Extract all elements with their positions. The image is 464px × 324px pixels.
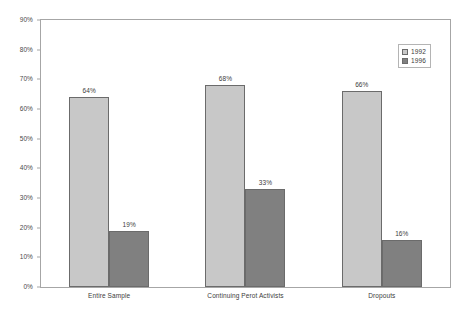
y-axis-tick-label: 60% [20, 105, 33, 112]
bar-1996-dropouts[interactable]: 16% [382, 240, 422, 287]
chart-legend: 19921996 [398, 44, 431, 68]
bar-value-label: 68% [219, 75, 232, 82]
y-axis-tick-label: 40% [20, 164, 33, 171]
bar-value-label: 66% [355, 81, 368, 88]
bar-value-label: 64% [83, 87, 96, 94]
y-axis-tick-label: 10% [20, 253, 33, 260]
bar-1992-continuing-perot-activists[interactable]: 68% [205, 85, 245, 287]
bar-group-bars: 64%19% [41, 20, 177, 287]
x-axis-tick-label: Continuing Perot Activists [207, 292, 283, 299]
bar-1996-continuing-perot-activists[interactable]: 33% [245, 189, 285, 287]
bar-value-label: 16% [395, 230, 408, 237]
bar-1992-dropouts[interactable]: 66% [342, 91, 382, 287]
bar-chart: 0%10%20%30%40%50%60%70%80%90% 64%19%68%3… [0, 0, 464, 324]
bar-value-label: 33% [259, 179, 272, 186]
bars-layer: 64%19%68%33%66%16% [41, 20, 450, 287]
legend-item-1996[interactable]: 1996 [402, 56, 426, 65]
x-axis-tick-label: Entire Sample [88, 292, 130, 299]
x-axis: Entire SampleContinuing Perot ActivistsD… [41, 292, 450, 308]
y-axis-tick-label: 90% [20, 16, 33, 23]
bar-group-bars: 68%33% [177, 20, 313, 287]
y-axis-tick-label: 30% [20, 194, 33, 201]
bar-1996-entire-sample[interactable]: 19% [109, 231, 149, 287]
legend-item-1992[interactable]: 1992 [402, 47, 426, 56]
y-axis-tick-label: 20% [20, 223, 33, 230]
legend-swatch-icon [402, 49, 408, 55]
legend-label: 1996 [411, 57, 426, 64]
y-axis-tick-label: 50% [20, 134, 33, 141]
x-axis-tick-label: Dropouts [368, 292, 395, 299]
legend-label: 1992 [411, 48, 426, 55]
bar-value-label: 19% [123, 221, 136, 228]
bar-group: 64%19% [41, 20, 177, 287]
y-axis-tick-label: 0% [23, 283, 33, 290]
bar-1992-entire-sample[interactable]: 64% [69, 97, 109, 287]
y-axis: 0%10%20%30%40%50%60%70%80%90% [0, 19, 37, 288]
y-axis-tick-label: 80% [20, 45, 33, 52]
legend-swatch-icon [402, 58, 408, 64]
bar-group: 68%33% [177, 20, 313, 287]
y-axis-tick-label: 70% [20, 75, 33, 82]
